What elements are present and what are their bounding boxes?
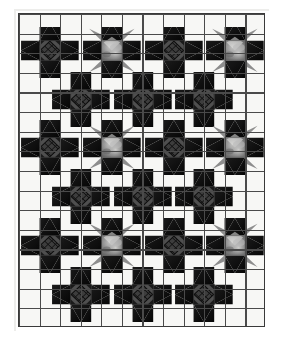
motif-r6c2	[112, 265, 174, 324]
motif-r6c1	[50, 265, 112, 324]
motif-layer	[19, 14, 264, 326]
quilt-diagram	[0, 0, 282, 354]
quilt-grid-board	[18, 13, 265, 327]
motif-r6c3	[173, 265, 235, 324]
